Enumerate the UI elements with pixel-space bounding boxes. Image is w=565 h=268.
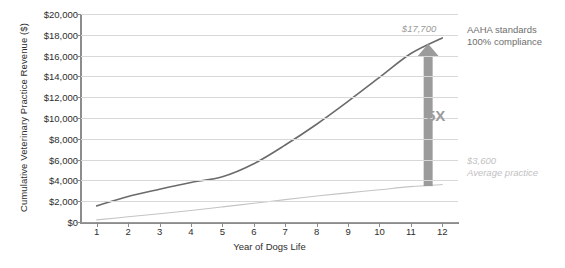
y-tick-mark	[76, 76, 81, 77]
gridline	[81, 118, 458, 119]
x-tick-label: 7	[283, 226, 288, 237]
legend-note-aaha-line2: 100% compliance	[467, 36, 542, 48]
y-tick-label: $6,000	[12, 154, 78, 165]
x-tick-label: 1	[94, 226, 99, 237]
x-tick-label: 8	[314, 226, 319, 237]
y-tick-mark	[76, 118, 81, 119]
gridline	[81, 180, 458, 181]
y-tick-mark	[76, 97, 81, 98]
chart-container: Cumulative Veterinary Practice Revenue (…	[0, 0, 565, 268]
gridline	[81, 35, 458, 36]
peak-value-callout: $17,700	[402, 23, 436, 34]
y-tick-label: $16,000	[12, 50, 78, 61]
y-tick-mark	[76, 56, 81, 57]
y-tick-mark	[76, 222, 81, 223]
legend-note-aaha-line1: AAHA standards	[467, 24, 542, 36]
x-tick-label: 12	[437, 226, 448, 237]
legend-note-average: $3,600 Average practice	[467, 155, 538, 179]
legend-note-average-line2: Average practice	[467, 167, 538, 179]
x-axis-tick-labels: 123456789101112	[81, 226, 458, 242]
x-axis-title: Year of Dogs Life	[81, 241, 458, 252]
legend-note-aaha: AAHA standards 100% compliance	[467, 24, 542, 48]
y-tick-mark	[76, 160, 81, 161]
x-tick-label: 4	[188, 226, 193, 237]
x-tick-label: 5	[220, 226, 225, 237]
gridline	[81, 97, 458, 98]
gridline	[81, 56, 458, 57]
gridline	[81, 139, 458, 140]
legend-note-average-line1: $3,600	[467, 155, 538, 167]
plot-area	[81, 14, 458, 222]
y-tick-label: $8,000	[12, 133, 78, 144]
y-tick-label: $0	[12, 217, 78, 228]
gridline	[81, 160, 458, 161]
y-tick-mark	[76, 14, 81, 15]
x-tick-label: 11	[406, 226, 416, 237]
y-tick-label: $4,000	[12, 175, 78, 186]
x-tick-label: 9	[345, 226, 350, 237]
y-axis-tick-labels: $0$2,000$4,000$6,000$8,000$10,000$12,000…	[12, 0, 78, 268]
x-tick-label: 10	[374, 226, 385, 237]
y-tick-label: $14,000	[12, 71, 78, 82]
y-tick-mark	[76, 201, 81, 202]
multiplier-callout: 5X	[427, 107, 445, 124]
y-tick-mark	[76, 180, 81, 181]
y-tick-label: $10,000	[12, 113, 78, 124]
x-tick-label: 3	[157, 226, 162, 237]
series-paths	[97, 38, 443, 220]
x-tick-label: 6	[251, 226, 256, 237]
y-tick-mark	[76, 35, 81, 36]
y-tick-label: $2,000	[12, 196, 78, 207]
y-tick-label: $20,000	[12, 9, 78, 20]
gridline	[81, 201, 458, 202]
gridline	[81, 76, 458, 77]
y-tick-mark	[76, 139, 81, 140]
gridline	[81, 222, 458, 223]
series-line-average	[97, 185, 443, 220]
y-tick-label: $12,000	[12, 92, 78, 103]
gridline	[81, 14, 458, 15]
x-tick-label: 2	[125, 226, 130, 237]
y-tick-label: $18,000	[12, 29, 78, 40]
